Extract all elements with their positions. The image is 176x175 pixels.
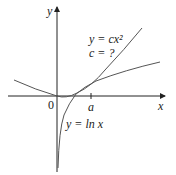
parabola-label: y = cx² [89, 33, 123, 45]
y-axis-label: y [47, 5, 52, 17]
x-axis-label: x [158, 100, 163, 112]
ln-curve [58, 62, 160, 168]
graph-canvas [0, 0, 176, 175]
tick-a-label: a [88, 101, 94, 113]
parabola-c-label: c = ? [89, 47, 114, 59]
ln-label: y = ln x [66, 118, 103, 130]
diagram: y x 0 a y = cx² c = ? y = ln x [0, 0, 176, 175]
origin-label: 0 [48, 99, 54, 111]
